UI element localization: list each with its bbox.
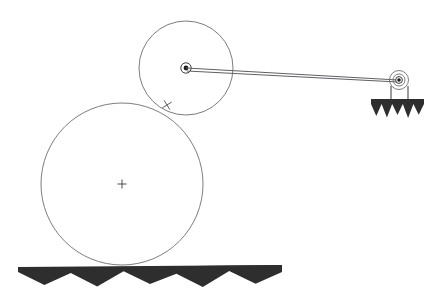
- bracket-ground-hatch-shape: [371, 99, 424, 118]
- contact-tick-mark: [162, 100, 171, 109]
- mechanics-diagram: [0, 0, 440, 306]
- contact-tick-stroke-b: [162, 102, 171, 108]
- large-wheel-center-cross: [118, 180, 127, 189]
- bracket-ground-hatch: [371, 99, 424, 118]
- fixed-pivot-support: [390, 71, 409, 102]
- floor-ground-hatch: [18, 265, 282, 287]
- large-wheel: [41, 103, 203, 265]
- fixed-pivot-dot: [397, 78, 401, 82]
- mechanism-drawing-canvas: [0, 0, 440, 306]
- connecting-rod-lower-edge: [187, 71, 398, 82]
- connecting-rod: [186, 68, 398, 80]
